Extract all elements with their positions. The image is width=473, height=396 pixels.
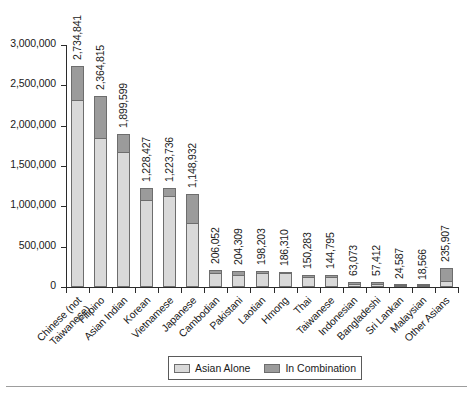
legend-item-asian-alone: Asian Alone (174, 362, 250, 374)
bar-taiwanese[interactable]: 144,795 (325, 275, 338, 287)
bar-segment-asian-alone (232, 275, 245, 287)
bar-stack (71, 66, 84, 287)
y-axis-tick-label: 0 (50, 279, 56, 291)
x-axis-tick-mark (458, 288, 459, 293)
bar-stack (348, 282, 361, 287)
x-axis-tick-mark (89, 288, 90, 293)
bar-segment-asian-alone (417, 285, 430, 287)
bar-korean[interactable]: 1,228,427 (140, 188, 153, 287)
x-axis-tick-mark (435, 288, 436, 293)
bar-pakistani[interactable]: 204,309 (232, 271, 245, 287)
x-axis-tick-mark (250, 288, 251, 293)
bar-stack (302, 275, 315, 287)
x-axis-tick-mark (412, 288, 413, 293)
x-axis-line (66, 287, 459, 288)
bar-stack (394, 284, 407, 287)
bar-stack (279, 272, 292, 287)
bar-hmong[interactable]: 186,310 (279, 272, 292, 287)
legend-swatch-asian-alone (174, 364, 190, 373)
bar-segment-asian-alone (186, 223, 199, 287)
y-axis-tick-label: 3,000,000 (10, 37, 56, 49)
bar-segment-asian-alone (371, 284, 384, 287)
bar-segment-in-combination (440, 268, 453, 281)
x-axis-tick-mark (66, 288, 67, 293)
bar-laotian[interactable]: 198,203 (256, 271, 269, 287)
bar-stack (163, 188, 176, 287)
bar-stack (94, 96, 107, 287)
bar-segment-asian-alone (325, 277, 338, 287)
bar-stack (371, 282, 384, 287)
x-axis-tick-mark (320, 288, 321, 293)
bar-segment-in-combination (117, 134, 130, 152)
asian-population-stacked-bar-chart: 3,000,0002,500,0002,000,0001,500,0001,00… (0, 0, 473, 396)
bar-segment-asian-alone (209, 273, 222, 287)
x-axis-tick-mark (112, 288, 113, 293)
bar-stack (140, 188, 153, 287)
bar-bangladeshi[interactable]: 57,412 (371, 282, 384, 287)
bar-value-label: 150,283 (301, 232, 313, 269)
bar-stack (232, 271, 245, 287)
y-axis-tick-label: 1,000,000 (10, 198, 56, 210)
bar-segment-in-combination (163, 188, 176, 196)
bar-stack (325, 275, 338, 287)
x-axis-tick-mark (227, 288, 228, 293)
bar-segment-asian-alone (279, 273, 292, 287)
bar-stack (209, 270, 222, 287)
y-axis-tick-label: 2,500,000 (10, 77, 56, 89)
bar-value-label: 198,203 (255, 228, 267, 265)
legend-label-asian-alone: Asian Alone (195, 362, 250, 374)
bar-value-label: 2,734,841 (71, 15, 83, 60)
bar-asian-indian[interactable]: 1,899,599 (117, 134, 130, 287)
legend-item-in-combination: In Combination (264, 362, 356, 374)
bar-stack (417, 284, 430, 287)
bar-malaysian[interactable]: 18,566 (417, 286, 430, 287)
y-axis-tick-label: 2,000,000 (10, 118, 56, 130)
bar-value-label: 63,073 (347, 245, 359, 276)
bar-segment-asian-alone (348, 284, 361, 287)
y-axis-tick-label: 500,000 (19, 239, 56, 251)
bar-value-label: 235,907 (439, 225, 451, 262)
bar-segment-in-combination (140, 188, 153, 200)
bar-stack (117, 134, 130, 287)
bar-other-asians[interactable]: 235,907 (440, 268, 453, 287)
x-axis-tick-mark (389, 288, 390, 293)
bar-filipino[interactable]: 2,364,815 (94, 96, 107, 287)
bar-thai[interactable]: 150,283 (302, 275, 315, 287)
bar-value-label: 1,899,599 (117, 83, 129, 128)
bar-cambodian[interactable]: 206,052 (209, 270, 222, 287)
bar-value-label: 186,310 (278, 229, 290, 266)
bar-japanese[interactable]: 1,148,932 (186, 194, 199, 287)
bar-segment-asian-alone (440, 281, 453, 287)
y-axis-tick-label: 1,500,000 (10, 158, 56, 170)
bar-chinese-not-taiwanese[interactable]: 2,734,841 (71, 66, 84, 287)
bar-value-label: 18,566 (416, 249, 428, 280)
bar-value-label: 206,052 (209, 228, 221, 265)
bar-segment-in-combination (94, 96, 107, 138)
bar-indonesian[interactable]: 63,073 (348, 282, 361, 287)
x-axis-tick-mark (297, 288, 298, 293)
bar-segment-asian-alone (140, 200, 153, 287)
plot-area: 2,734,8412,364,8151,899,5991,228,4271,22… (66, 45, 458, 287)
bar-stack (440, 268, 453, 287)
legend-swatch-in-combination (264, 364, 280, 373)
bar-segment-in-combination (71, 66, 84, 100)
bar-value-label: 57,412 (370, 245, 382, 276)
bar-stack (186, 194, 199, 287)
bar-segment-asian-alone (163, 196, 176, 287)
bar-segment-asian-alone (302, 277, 315, 287)
bar-value-label: 1,148,932 (186, 143, 198, 188)
bar-segment-in-combination (186, 194, 199, 222)
bar-value-label: 144,795 (324, 233, 336, 270)
bar-vietnamese[interactable]: 1,223,736 (163, 188, 176, 287)
bar-sri-lankan[interactable]: 24,587 (394, 285, 407, 287)
bar-value-label: 1,223,736 (163, 137, 175, 182)
x-axis-tick-mark (274, 288, 275, 293)
x-axis-tick-mark (135, 288, 136, 293)
legend-label-in-combination: In Combination (285, 362, 356, 374)
bar-value-label: 1,228,427 (140, 137, 152, 182)
bar-segment-asian-alone (256, 273, 269, 287)
x-axis-tick-mark (343, 288, 344, 293)
x-axis-tick-mark (181, 288, 182, 293)
bar-value-label: 2,364,815 (94, 45, 106, 90)
bar-value-label: 24,587 (393, 248, 405, 279)
